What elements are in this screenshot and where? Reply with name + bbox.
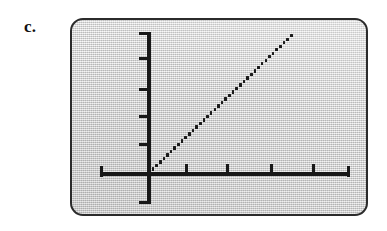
- x-axis-tick-2: [270, 164, 273, 173]
- data-dot: [272, 52, 275, 55]
- data-dot: [257, 66, 260, 69]
- y-axis-tick-0: [139, 57, 148, 60]
- figure-root: c.: [0, 0, 387, 231]
- data-dot: [152, 167, 155, 170]
- data-dot: [283, 41, 286, 44]
- data-dot: [265, 59, 268, 62]
- data-dot: [235, 87, 238, 90]
- data-dot: [275, 48, 278, 51]
- x-axis-tick-3: [312, 164, 315, 173]
- y-axis-tick-2: [139, 115, 148, 118]
- data-dot: [188, 132, 191, 135]
- data-dot: [224, 97, 227, 100]
- y-axis-tick-3: [139, 143, 148, 146]
- data-dot: [159, 160, 162, 163]
- data-dot: [221, 101, 224, 104]
- data-dot: [261, 62, 264, 65]
- data-dot: [228, 94, 231, 97]
- x-axis-left-endcap: [100, 166, 103, 177]
- data-dot: [250, 73, 253, 76]
- data-dot: [210, 111, 213, 114]
- data-dot: [290, 34, 293, 37]
- data-dot: [184, 136, 187, 139]
- part-label: c.: [24, 17, 36, 36]
- x-axis-right-endcap: [347, 166, 350, 177]
- y-axis-bottom-endcap: [139, 201, 151, 204]
- plot-surface: [72, 20, 366, 214]
- y-axis-tick-1: [139, 88, 148, 91]
- data-dot: [239, 83, 242, 86]
- data-dot: [214, 108, 217, 111]
- data-dot: [206, 115, 209, 118]
- data-dot: [155, 164, 158, 167]
- x-axis-tick-1: [226, 164, 229, 173]
- data-dot: [192, 129, 195, 132]
- data-dot: [268, 55, 271, 58]
- dotted-line-series: [72, 20, 366, 214]
- data-dot: [163, 157, 166, 160]
- data-dot: [195, 125, 198, 128]
- data-dot: [203, 118, 206, 121]
- data-dot: [177, 143, 180, 146]
- y-axis-top-endcap: [139, 32, 151, 35]
- data-dot: [181, 139, 184, 142]
- data-dot: [166, 153, 169, 156]
- data-dot: [217, 104, 220, 107]
- data-dot: [173, 146, 176, 149]
- graph-screen-panel: [70, 18, 368, 216]
- data-dot: [232, 90, 235, 93]
- data-dot: [254, 69, 257, 72]
- data-dot: [243, 80, 246, 83]
- data-dot: [279, 45, 282, 48]
- data-dot: [170, 150, 173, 153]
- data-dot: [246, 76, 249, 79]
- data-dot: [286, 38, 289, 41]
- data-dot: [199, 122, 202, 125]
- x-axis-tick-0: [185, 164, 188, 173]
